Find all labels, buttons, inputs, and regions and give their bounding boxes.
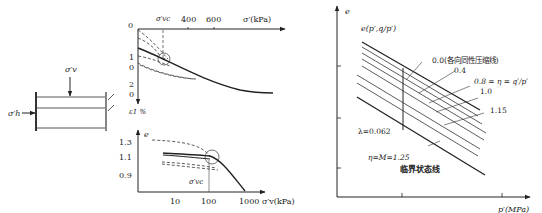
lambda-label: λ=0.062 xyxy=(358,127,391,136)
x-axis-label: σ′v(kPa) xyxy=(262,197,295,206)
figure-canvas: σ′v σ′h 0 σ′vc 400 600 σ′(kPa) 1 0 2 0 ε… xyxy=(0,0,542,213)
label-eta-0-8: 0.8 = η = q′/p′ xyxy=(474,77,528,86)
x-tick-600: 600 xyxy=(206,15,221,24)
y-tick-1-3: 1.3 xyxy=(119,138,132,147)
origin-label: 0 xyxy=(128,21,133,30)
sigma-v-label: σ′v xyxy=(65,65,77,74)
label-eta-1-0: 1.0 xyxy=(480,87,492,96)
y-tick-1-1: 1.1 xyxy=(119,153,132,162)
x-tick-400: 400 xyxy=(181,15,196,24)
y-tick-1: 1 xyxy=(129,53,134,62)
y-axis-label: e xyxy=(345,7,350,16)
x-tick-sigma-vc: σ′vc xyxy=(156,15,170,23)
stress-strain-chart: 0 σ′vc 400 600 σ′(kPa) 1 0 2 0 ε1 % xyxy=(128,15,285,116)
specimen-sketch: σ′v σ′h xyxy=(8,65,114,131)
y-tick-2: 2 xyxy=(129,80,134,89)
eta-m-label: η=M=1.25 xyxy=(368,153,410,162)
critical-state-line-label: 临界状态线 xyxy=(400,164,440,174)
label-eta-0-4: 0.4 xyxy=(454,66,466,75)
x-tick-1000: 1000 xyxy=(239,197,259,206)
y-tick-0-9: 0.9 xyxy=(119,171,132,180)
y-axis-label: ε1 % xyxy=(129,108,146,116)
compression-chart: e 1.3 1.1 0.9 10 100 1000 σ′v(kPa) σ′vc xyxy=(119,130,295,206)
y-tick-0b: 0 xyxy=(129,90,134,99)
curve-label: e(p′,q/p′) xyxy=(361,24,396,33)
label-eta-0-0: 0.0(各向同性压缩线) xyxy=(432,55,499,65)
sigma-h-label: σ′h xyxy=(8,109,20,118)
y-tick-0a: 0 xyxy=(129,63,134,72)
x-axis-label: σ′(kPa) xyxy=(243,15,271,24)
x-tick-100: 100 xyxy=(201,197,216,206)
sigma-vc-marker-label: σ′vc xyxy=(189,178,203,186)
line-eta-0-8 xyxy=(362,59,486,133)
y-axis-label: e xyxy=(144,130,149,139)
state-boundary-chart: e e(p′,q/p′) 0.0(各向同性压缩线) 0.4 0.8 = η = … xyxy=(337,6,530,213)
line-eta-0-0 xyxy=(362,42,480,110)
label-eta-1-15: 1.15 xyxy=(490,106,507,115)
x-axis-label: p′(MPa) xyxy=(498,205,529,213)
x-tick-10: 10 xyxy=(170,197,180,206)
